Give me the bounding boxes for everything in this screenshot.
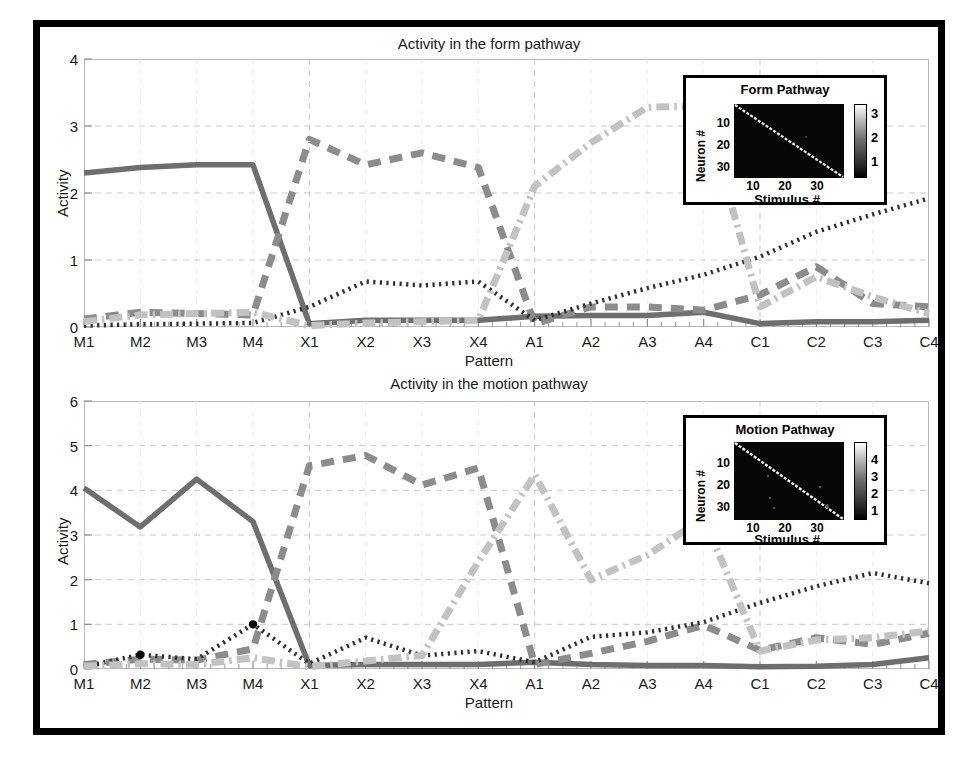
inset-colorbar-tick-form-1: 1	[871, 154, 878, 169]
inset-form-pathway: Form Pathway Neuron # 10 20 30 3 2 1 10 …	[683, 75, 887, 205]
series-dotted-black	[84, 573, 929, 667]
inset-colorbar-tick-form-2: 2	[871, 130, 878, 145]
x-tick-motion-pathway-a1: A1	[515, 675, 555, 692]
x-tick-motion-pathway-c1: C1	[740, 675, 780, 692]
x-tick-motion-pathway-c3: C3	[853, 675, 893, 692]
x-axis-label-form: Pattern	[40, 352, 938, 369]
x-tick-form-pathway-m4: M4	[233, 333, 273, 350]
inset-y-tick-motion-20: 20	[708, 478, 730, 492]
x-tick-form-pathway-c3: C3	[853, 333, 893, 350]
inset-y-tick-form-10: 10	[708, 116, 730, 130]
inset-colorbar-tick-form-3: 3	[871, 106, 878, 121]
x-tick-form-pathway-x1: X1	[289, 333, 329, 350]
x-tick-motion-pathway-m2: M2	[120, 675, 160, 692]
x-axis-label-motion: Pattern	[40, 694, 938, 711]
inset-colorbar-tick-motion-4: 4	[871, 452, 878, 467]
x-tick-form-pathway-c1: C1	[740, 333, 780, 350]
inset-colorbar-motion	[854, 442, 867, 520]
x-tick-form-pathway-a4: A4	[684, 333, 724, 350]
inset-x-tick-form-10: 10	[742, 179, 764, 193]
x-tick-motion-pathway-x2: X2	[346, 675, 386, 692]
x-tick-form-pathway-m2: M2	[120, 333, 160, 350]
inset-title-motion: Motion Pathway	[686, 422, 884, 437]
inset-colorbar-form	[854, 104, 867, 178]
inset-x-tick-form-20: 20	[774, 179, 796, 193]
inset-heatmap-form	[734, 104, 844, 178]
inset-x-axis-label-motion: Stimulus #	[712, 532, 862, 547]
inset-y-axis-label-form: Neuron #	[694, 130, 708, 182]
x-tick-motion-pathway-a2: A2	[571, 675, 611, 692]
x-tick-form-pathway-c4: C4	[909, 333, 949, 350]
x-tick-form-pathway-x4: X4	[458, 333, 498, 350]
inset-y-axis-label-motion: Neuron #	[694, 470, 708, 522]
x-tick-motion-pathway-c4: C4	[909, 675, 949, 692]
x-tick-motion-pathway-x4: X4	[458, 675, 498, 692]
inset-colorbar-tick-motion-2: 2	[871, 486, 878, 501]
inset-colorbar-tick-motion-3: 3	[871, 469, 878, 484]
x-tick-motion-pathway-m4: M4	[233, 675, 273, 692]
inset-y-tick-form-20: 20	[708, 138, 730, 152]
inset-x-tick-form-30: 30	[806, 179, 828, 193]
inset-title-form: Form Pathway	[686, 82, 884, 97]
x-tick-form-pathway-c2: C2	[796, 333, 836, 350]
data-point-marker	[249, 620, 257, 628]
x-tick-form-pathway-x3: X3	[402, 333, 442, 350]
inset-x-axis-label-form: Stimulus #	[712, 192, 862, 207]
inset-colorbar-tick-motion-1: 1	[871, 503, 878, 518]
x-tick-motion-pathway-x1: X1	[289, 675, 329, 692]
x-tick-form-pathway-x2: X2	[346, 333, 386, 350]
x-tick-motion-pathway-m3: M3	[177, 675, 217, 692]
x-tick-motion-pathway-m1: M1	[64, 675, 104, 692]
x-tick-motion-pathway-x3: X3	[402, 675, 442, 692]
x-tick-motion-pathway-c2: C2	[796, 675, 836, 692]
x-tick-form-pathway-m1: M1	[64, 333, 104, 350]
x-tick-form-pathway-a2: A2	[571, 333, 611, 350]
figure-frame: Activity in the form pathway Activity 4 …	[33, 20, 945, 735]
inset-motion-pathway: Motion Pathway Neuron # 10 20 30 4 3	[683, 415, 887, 545]
inset-y-tick-form-30: 30	[708, 160, 730, 174]
x-tick-form-pathway-m3: M3	[177, 333, 217, 350]
x-tick-form-pathway-a1: A1	[515, 333, 555, 350]
x-tick-motion-pathway-a4: A4	[684, 675, 724, 692]
data-point-marker	[136, 651, 144, 659]
inset-y-tick-motion-10: 10	[708, 456, 730, 470]
inset-heatmap-motion	[734, 442, 844, 520]
inset-y-tick-motion-30: 30	[708, 500, 730, 514]
x-tick-motion-pathway-a3: A3	[627, 675, 667, 692]
x-tick-form-pathway-a3: A3	[627, 333, 667, 350]
